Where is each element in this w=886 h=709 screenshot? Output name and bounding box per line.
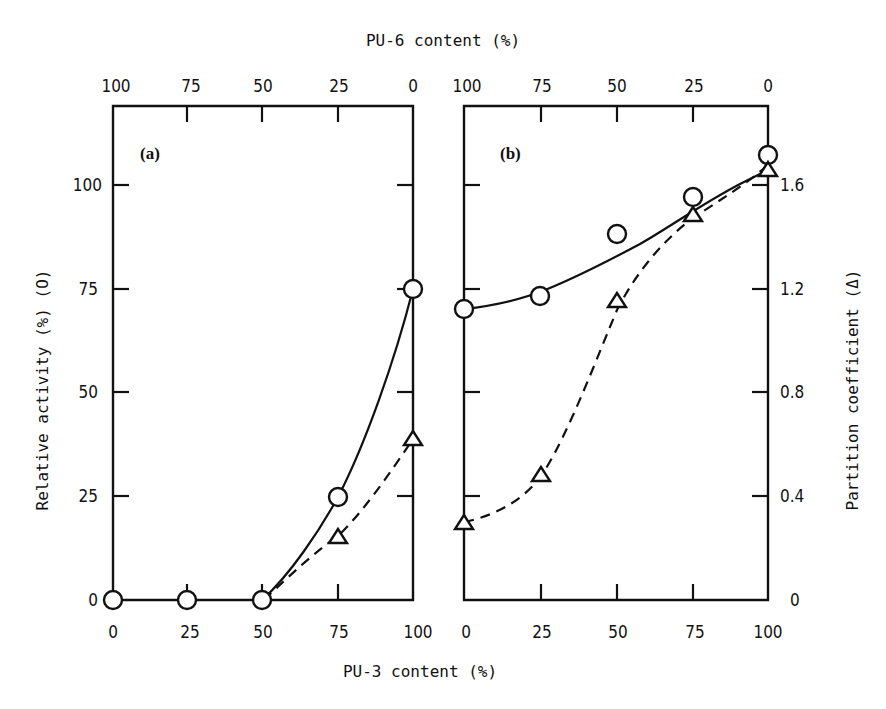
circle-marker <box>404 280 422 298</box>
tick-label: 100 <box>452 76 481 96</box>
tick-label: 1.2 <box>780 279 804 299</box>
tick-label: 50 <box>79 382 98 402</box>
circle-marker <box>104 591 122 609</box>
panel-a-frame <box>113 106 413 600</box>
tick-label: 50 <box>253 622 272 642</box>
tick-label: 0 <box>461 622 471 642</box>
circle-marker <box>684 188 702 206</box>
circle-marker <box>531 287 549 305</box>
tick-label: 75 <box>329 622 348 642</box>
triangle-marker <box>532 467 550 481</box>
tick-label: 50 <box>253 76 272 96</box>
tick-label: 1.6 <box>780 175 804 195</box>
panel-a-label: (a) <box>140 144 160 163</box>
left-ticks: 0 25 50 75 100 <box>73 175 102 610</box>
tick-label: 100 <box>403 622 432 642</box>
tick-label: 25 <box>532 622 551 642</box>
tick-label: 50 <box>608 622 627 642</box>
tick-label: 0 <box>790 590 800 610</box>
top-ticks-b: 100 75 50 25 0 <box>452 76 772 96</box>
circle-marker <box>178 591 196 609</box>
bottom-ticks-b: 0 25 50 75 100 <box>461 622 782 642</box>
circle-marker <box>608 225 626 243</box>
tick-label: 75 <box>181 76 200 96</box>
tick-label: 25 <box>79 486 98 506</box>
tick-label: 0 <box>763 76 773 96</box>
bottom-axis-title: PU-3 content (%) <box>343 662 497 681</box>
tick-label: 100 <box>73 175 102 195</box>
circle-marker <box>253 591 271 609</box>
figure: PU-6 content (%) 100 75 50 25 0 100 75 5… <box>0 0 886 709</box>
tick-label: 25 <box>180 622 199 642</box>
left-axis-title: Relative activity (%) (O) <box>33 270 52 511</box>
tick-label: 75 <box>685 622 704 642</box>
tick-label: 25 <box>684 76 703 96</box>
activity-curve-a <box>113 289 413 600</box>
partition-curve-b <box>464 165 768 522</box>
triangle-marker <box>608 293 626 307</box>
tick-label: 0.8 <box>780 382 804 402</box>
circle-marker <box>329 488 347 506</box>
top-ticks-a: 100 75 50 25 0 <box>101 76 417 96</box>
panel-b: (b) <box>455 106 777 600</box>
tick-label: 50 <box>607 76 626 96</box>
tick-label: 75 <box>79 279 98 299</box>
triangle-marker <box>404 431 422 445</box>
top-axis-title: PU-6 content (%) <box>366 31 520 50</box>
bottom-ticks-a: 0 25 50 75 100 <box>108 622 432 642</box>
tick-label: 0 <box>408 76 418 96</box>
right-ticks: 0 0.4 0.8 1.2 1.6 <box>780 175 804 610</box>
tick-label: 75 <box>532 76 551 96</box>
circle-marker <box>455 300 473 318</box>
panel-b-frame <box>464 106 768 600</box>
triangle-marker <box>455 515 473 529</box>
tick-label: 0.4 <box>780 486 804 506</box>
tick-label: 0 <box>108 622 118 642</box>
panel-b-label: (b) <box>500 144 521 163</box>
tick-label: 100 <box>101 76 130 96</box>
tick-label: 100 <box>753 622 782 642</box>
tick-label: 25 <box>329 76 348 96</box>
panel-a: (a) <box>104 106 422 609</box>
tick-label: 0 <box>88 590 98 610</box>
right-axis-title: Partition coefficient (Δ) <box>843 270 862 511</box>
